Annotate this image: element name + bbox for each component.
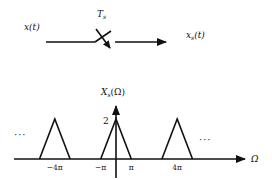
spectrum-triangle-2: [162, 119, 193, 159]
ellipsis-right: ···: [199, 134, 212, 145]
sampling-period-label: Ts: [97, 9, 106, 20]
tick-label-0: −4π: [47, 163, 63, 172]
tick-label-2: π: [129, 163, 134, 172]
spectrum-plot: Ω Xs(Ω) 2 ··· ··· −4π−ππ4π: [14, 87, 259, 178]
peak-value-label: 2: [103, 116, 109, 126]
omega-axis-label: Ω: [250, 154, 259, 164]
amplitude-axis-label: Xs(Ω): [100, 87, 125, 98]
ellipsis-left: ···: [14, 129, 27, 140]
input-signal-label: x(t): [24, 22, 40, 32]
spectrum-triangle-0: [40, 119, 71, 159]
switch-blade-arrow: [96, 29, 110, 48]
sampler-block: x(t) Ts xs(t): [24, 9, 205, 48]
sampling-diagram: x(t) Ts xs(t) Ω Xs(Ω) 2 ··· ··· −4π−ππ4π: [0, 0, 272, 180]
output-signal-label: xs(t): [186, 30, 205, 41]
tick-label-3: 4π: [172, 163, 182, 172]
switch-crossbar: [95, 31, 111, 42]
tick-label-1: −π: [95, 163, 106, 172]
